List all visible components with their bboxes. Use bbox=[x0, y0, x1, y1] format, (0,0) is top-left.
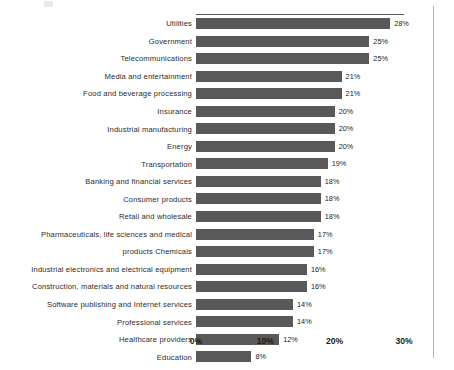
bar-row: Software publishing and Internet service… bbox=[0, 296, 454, 314]
bar-value-label: 21% bbox=[346, 89, 361, 98]
bar-value-label: 20% bbox=[339, 142, 354, 151]
bar-container: 20% bbox=[196, 123, 353, 134]
bar-value-label: 18% bbox=[325, 177, 340, 186]
bar-container: 18% bbox=[196, 211, 339, 222]
plot-area: Utilities28%Government25%Telecommunicati… bbox=[0, 15, 454, 331]
bar bbox=[196, 316, 293, 327]
bar bbox=[196, 299, 293, 310]
bar bbox=[196, 123, 335, 134]
bar-row: Government25% bbox=[0, 33, 454, 51]
bar-row: Construction, materials and natural reso… bbox=[0, 278, 454, 296]
bar-container: 21% bbox=[196, 88, 360, 99]
bar bbox=[196, 193, 321, 204]
bar bbox=[196, 246, 314, 257]
bar-row: Transportation19% bbox=[0, 155, 454, 173]
category-label: Telecommunications bbox=[0, 54, 192, 63]
bar-row: Utilities28% bbox=[0, 15, 454, 33]
bar bbox=[196, 264, 307, 275]
bar bbox=[196, 229, 314, 240]
x-tick-label: 10% bbox=[257, 336, 274, 346]
bar-value-label: 21% bbox=[346, 72, 361, 81]
category-label: Utilities bbox=[0, 19, 192, 28]
bar-value-label: 19% bbox=[332, 159, 347, 168]
bar-row: products Chemicals17% bbox=[0, 243, 454, 261]
bar bbox=[196, 281, 307, 292]
category-label: Consumer products bbox=[0, 195, 192, 204]
bar-row: Insurance20% bbox=[0, 103, 454, 121]
bar-row: Professional services14% bbox=[0, 313, 454, 331]
bar-container: 17% bbox=[196, 246, 332, 257]
category-label: Retail and wholesale bbox=[0, 212, 192, 221]
bar-container: 18% bbox=[196, 193, 339, 204]
category-label: Energy bbox=[0, 142, 192, 151]
category-label: Industrial manufacturing bbox=[0, 125, 192, 134]
bar bbox=[196, 106, 335, 117]
bar bbox=[196, 88, 342, 99]
bar-row: Pharmaceuticals, life sciences and medic… bbox=[0, 226, 454, 244]
category-label: Software publishing and Internet service… bbox=[0, 300, 192, 309]
bar-value-label: 20% bbox=[339, 107, 354, 116]
bar-container: 8% bbox=[196, 351, 266, 362]
bar-container: 16% bbox=[196, 264, 326, 275]
category-label: Pharmaceuticals, life sciences and medic… bbox=[0, 230, 192, 239]
bar-chart: Utilities28%Government25%Telecommunicati… bbox=[0, 0, 454, 370]
bar-container: 14% bbox=[196, 299, 312, 310]
top-edge-artifact bbox=[44, 1, 53, 7]
category-label: Industrial electronics and electrical eq… bbox=[0, 265, 192, 274]
bar-value-label: 25% bbox=[373, 54, 388, 63]
bar-value-label: 18% bbox=[325, 212, 340, 221]
bar-row: Retail and wholesale18% bbox=[0, 208, 454, 226]
bar bbox=[196, 176, 321, 187]
x-tick-label: 30% bbox=[395, 336, 412, 346]
bar bbox=[196, 71, 342, 82]
x-axis: 0%10%20%30% bbox=[0, 336, 454, 350]
bar bbox=[196, 351, 251, 362]
bar-container: 20% bbox=[196, 106, 353, 117]
bar bbox=[196, 18, 390, 29]
bar-row: Telecommunications25% bbox=[0, 50, 454, 68]
category-label: Government bbox=[0, 37, 192, 46]
category-label: Food and beverage processing bbox=[0, 89, 192, 98]
bar-row: Industrial manufacturing20% bbox=[0, 120, 454, 138]
category-label: Education bbox=[0, 353, 192, 362]
bar-row: Energy20% bbox=[0, 138, 454, 156]
bar bbox=[196, 53, 369, 64]
bar-container: 14% bbox=[196, 316, 312, 327]
bar-row: Industrial electronics and electrical eq… bbox=[0, 261, 454, 279]
bar-value-label: 25% bbox=[373, 37, 388, 46]
bar-value-label: 28% bbox=[394, 19, 409, 28]
bar-row: Media and entertainment21% bbox=[0, 68, 454, 86]
bar-container: 21% bbox=[196, 71, 360, 82]
category-label: products Chemicals bbox=[0, 247, 192, 256]
category-label: Professional services bbox=[0, 318, 192, 327]
bar-container: 20% bbox=[196, 141, 353, 152]
bar-row: Banking and financial services18% bbox=[0, 173, 454, 191]
bar-row: Consumer products18% bbox=[0, 190, 454, 208]
x-tick-label: 20% bbox=[326, 336, 343, 346]
bar-value-label: 17% bbox=[318, 247, 333, 256]
bar-container: 17% bbox=[196, 229, 332, 240]
bar-value-label: 8% bbox=[255, 352, 266, 361]
bar-value-label: 16% bbox=[311, 265, 326, 274]
bar-value-label: 16% bbox=[311, 282, 326, 291]
bar-container: 16% bbox=[196, 281, 326, 292]
bar-value-label: 18% bbox=[325, 194, 340, 203]
bar-container: 28% bbox=[196, 18, 409, 29]
bar-row: Education8% bbox=[0, 348, 454, 366]
bar bbox=[196, 211, 321, 222]
x-tick-label: 0% bbox=[190, 336, 202, 346]
category-label: Banking and financial services bbox=[0, 177, 192, 186]
bar-container: 25% bbox=[196, 53, 388, 64]
bar-value-label: 14% bbox=[297, 300, 312, 309]
bar-value-label: 14% bbox=[297, 317, 312, 326]
category-label: Insurance bbox=[0, 107, 192, 116]
bar-container: 18% bbox=[196, 176, 339, 187]
bar-value-label: 20% bbox=[339, 124, 354, 133]
category-label: Construction, materials and natural reso… bbox=[0, 282, 192, 291]
bar-container: 19% bbox=[196, 158, 346, 169]
bar-value-label: 17% bbox=[318, 230, 333, 239]
bar-container: 25% bbox=[196, 36, 388, 47]
bar bbox=[196, 36, 369, 47]
bar bbox=[196, 158, 328, 169]
bar bbox=[196, 141, 335, 152]
